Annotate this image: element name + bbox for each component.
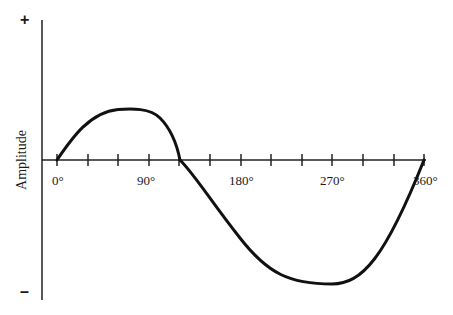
negative-half-cycle <box>180 160 424 284</box>
x-tick-label-270: 270° <box>320 173 345 189</box>
x-tick-label-0: 0° <box>52 173 64 189</box>
x-tick-label-360: 360° <box>413 173 438 189</box>
y-axis-positive-sign: + <box>20 11 29 29</box>
waveform-plot <box>0 0 453 315</box>
y-axis-label: Amplitude <box>14 130 30 190</box>
y-axis-negative-sign: – <box>20 283 29 301</box>
x-tick-label-90: 90° <box>137 173 155 189</box>
x-tick-label-180: 180° <box>229 173 254 189</box>
positive-half-cycle <box>57 109 180 160</box>
